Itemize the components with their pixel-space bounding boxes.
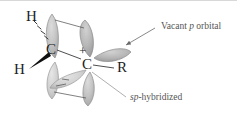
- positive-charge-label: +: [79, 44, 86, 57]
- annotation-vacant-p-orbital: Vacant p orbital: [161, 22, 221, 32]
- orbital-diagram-figure: H H C C + R Vacant p orbital sp-hybridiz…: [0, 0, 237, 117]
- orbital-lobe-right-carbon-down: [83, 72, 94, 106]
- substituent-label-r: R: [117, 60, 127, 75]
- plain-bond-c-right-to-r: [93, 65, 114, 68]
- leader-arrow-vacant-p-orbital: [126, 28, 155, 45]
- annotation-sp-suffix: -hybridized: [138, 92, 182, 102]
- annotation-vacant-prefix: Vacant: [161, 21, 189, 31]
- atom-label-carbon-left: C: [46, 42, 56, 57]
- atom-label-hydrogen-top: H: [26, 9, 37, 24]
- annotation-vacant-suffix: orbital: [194, 21, 221, 31]
- atom-label-carbon-right: C: [82, 57, 92, 72]
- leader-line-sp-hybridized: [92, 72, 126, 97]
- atom-label-hydrogen-left: H: [14, 62, 25, 77]
- annotation-sp-hybridized: sp-hybridized: [130, 93, 182, 103]
- plain-bond-c-left-to-c-right: [57, 50, 81, 59]
